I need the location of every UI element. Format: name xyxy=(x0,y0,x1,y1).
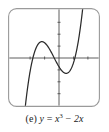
function-graph xyxy=(8,8,100,107)
figure-caption: (e) y = x3 − 2x xyxy=(0,112,109,125)
caption-label: (e) xyxy=(25,113,36,124)
figure-panel: (e) y = x3 − 2x xyxy=(0,0,109,132)
calculator-screen-frame xyxy=(8,8,100,107)
caption-term2: 2x xyxy=(74,113,84,124)
